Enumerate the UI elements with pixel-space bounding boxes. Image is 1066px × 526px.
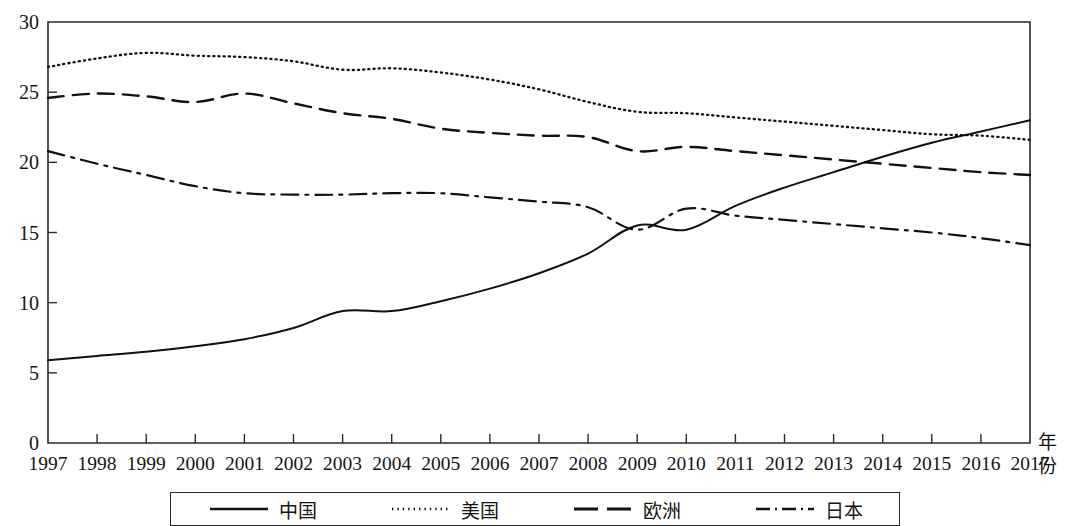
legend-item-japan: 日本 (754, 496, 863, 523)
x-tick-label: 2011 (716, 453, 754, 474)
x-axis-ticks (97, 434, 981, 443)
x-tick-label: 2013 (814, 453, 853, 474)
legend-swatch-dashdot (754, 502, 816, 516)
x-axis-tick-labels: 1997199819992000200120022003200420052006… (29, 453, 1050, 474)
legend-label-japan: 日本 (825, 496, 863, 523)
x-tick-label: 1997 (29, 453, 68, 474)
x-tick-label: 2012 (765, 453, 804, 474)
y-tick-label: 20 (19, 151, 39, 173)
series-line-japan (48, 151, 1030, 245)
y-axis-tick-labels: 051015202530 (19, 11, 39, 454)
x-tick-label: 2010 (667, 453, 706, 474)
legend-label-china: 中国 (279, 496, 317, 523)
x-tick-label: 1999 (127, 453, 166, 474)
chart-legend: 中国 美国 欧洲 日本 (170, 492, 900, 526)
y-tick-label: 5 (29, 362, 39, 384)
legend-swatch-dashed (572, 502, 634, 516)
legend-swatch-dotted (390, 502, 452, 516)
x-tick-label: 2002 (274, 453, 313, 474)
legend-item-europe: 欧洲 (572, 496, 681, 523)
legend-item-china: 中国 (208, 496, 317, 523)
x-tick-label: 2015 (912, 453, 951, 474)
legend-label-europe: 欧洲 (643, 496, 681, 523)
x-tick-label: 2001 (225, 453, 264, 474)
x-tick-label: 2006 (470, 453, 509, 474)
line-chart: 051015202530 199719981999200020012002200… (0, 0, 1066, 526)
y-tick-label: 10 (19, 292, 39, 314)
x-tick-label: 2000 (176, 453, 215, 474)
y-axis-ticks (48, 92, 57, 373)
series-line-europe (48, 94, 1030, 175)
x-tick-label: 2005 (421, 453, 460, 474)
series-line-usa (48, 53, 1030, 140)
chart-canvas: 051015202530 199719981999200020012002200… (0, 0, 1066, 526)
legend-item-usa: 美国 (390, 496, 499, 523)
x-tick-label: 2004 (372, 453, 411, 474)
legend-label-usa: 美国 (461, 496, 499, 523)
x-tick-label: 2014 (863, 453, 902, 474)
x-tick-label: 2003 (323, 453, 362, 474)
y-tick-label: 0 (29, 432, 39, 454)
legend-swatch-solid (208, 502, 270, 516)
series-line-china (48, 120, 1030, 360)
y-tick-label: 30 (19, 11, 39, 33)
plot-frame (48, 22, 1030, 443)
x-tick-label: 1998 (78, 453, 117, 474)
y-tick-label: 15 (19, 222, 39, 244)
x-tick-label: 2016 (961, 453, 1000, 474)
x-tick-label: 2007 (520, 453, 559, 474)
data-series-group (48, 53, 1030, 360)
svg-text:份: 份 (1038, 456, 1057, 477)
y-tick-label: 25 (19, 81, 39, 103)
x-tick-label: 2008 (569, 453, 608, 474)
x-tick-label: 2009 (618, 453, 657, 474)
svg-text:年: 年 (1038, 432, 1057, 453)
